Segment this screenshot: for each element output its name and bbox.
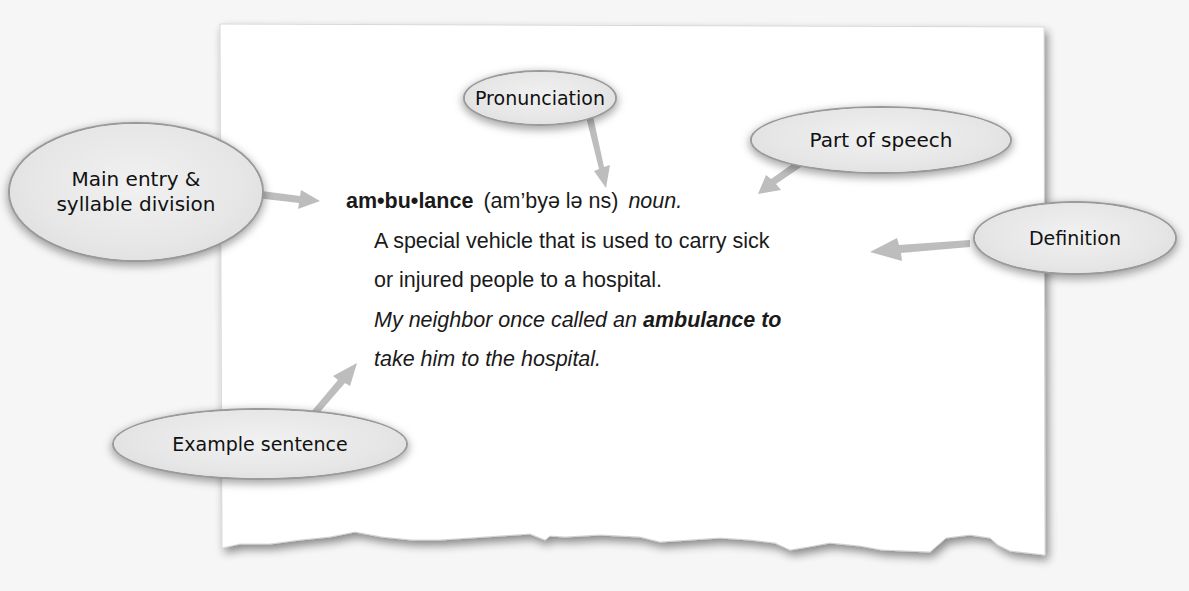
example-line-1: My neighbor once called an ambulance to xyxy=(346,301,1006,341)
callout-example-sentence-label: Example sentence xyxy=(172,432,347,457)
dictionary-entry: am•bu•lance(am’byə lə ns)noun. A special… xyxy=(346,182,1006,380)
callout-main-entry: Main entry & syllable division xyxy=(10,124,262,260)
callout-part-of-speech: Part of speech xyxy=(752,108,1010,172)
headword: am•bu•lance xyxy=(346,189,473,213)
example-line-2: take him to the hospital. xyxy=(346,340,1006,380)
callout-main-entry-line2: syllable division xyxy=(56,192,215,217)
definition-line-2: or injured people to a hospital. xyxy=(346,261,1006,301)
definition-line-1: A special vehicle that is used to carry … xyxy=(346,222,1006,262)
example-highlight: ambulance to xyxy=(643,308,782,332)
callout-pronunciation-label: Pronunciation xyxy=(475,86,605,111)
entry-headline: am•bu•lance(am’byə lə ns)noun. xyxy=(346,182,1006,222)
part-of-speech-text: noun. xyxy=(628,189,682,213)
callout-main-entry-line1: Main entry & xyxy=(56,167,215,192)
callout-definition-label: Definition xyxy=(1029,226,1121,251)
callout-pronunciation: Pronunciation xyxy=(465,72,615,124)
diagram-stage: am•bu•lance(am’byə lə ns)noun. A special… xyxy=(0,0,1189,591)
callout-part-of-speech-label: Part of speech xyxy=(810,128,953,153)
pronunciation-text: (am’byə lə ns) xyxy=(483,189,618,213)
callout-definition: Definition xyxy=(975,203,1175,273)
callout-example-sentence: Example sentence xyxy=(114,410,406,478)
example-prefix: My neighbor once called an xyxy=(374,308,643,332)
